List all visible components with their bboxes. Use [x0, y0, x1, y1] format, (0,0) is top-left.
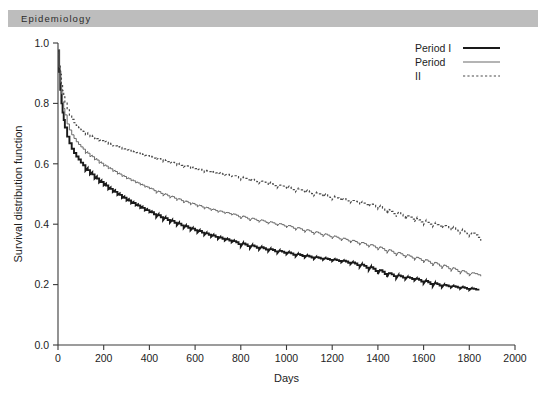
- survival-curve-2: [58, 50, 481, 277]
- x-axis-title: Days: [274, 372, 300, 384]
- survival-curve-1: [58, 51, 478, 291]
- legend-label-3: II: [415, 70, 421, 82]
- legend-label-2: Period: [415, 56, 446, 68]
- chart-legend: Period IPeriodII: [415, 42, 500, 82]
- legend-label-1: Period I: [415, 42, 451, 54]
- y-tick-label: 0.4: [34, 218, 49, 230]
- x-tick-label: 600: [186, 352, 204, 364]
- x-tick-label: 1800: [458, 352, 482, 364]
- y-tick-label: 0.8: [34, 97, 49, 109]
- y-axis-title: Survival distribution function: [12, 126, 24, 263]
- x-tick-label: 1000: [275, 352, 299, 364]
- x-axis-ticks: 0200400600800100012001400160018002000: [55, 345, 527, 364]
- y-axis-ticks: 0.00.20.40.60.81.0: [34, 37, 58, 351]
- survival-chart-svg: 0.00.20.40.60.81.0 020040060080010001200…: [0, 0, 551, 394]
- x-tick-label: 400: [141, 352, 159, 364]
- y-tick-label: 1.0: [34, 37, 49, 49]
- x-tick-label: 1200: [321, 352, 345, 364]
- x-tick-label: 0: [55, 352, 61, 364]
- survival-curves: [58, 50, 481, 291]
- y-tick-label: 0.2: [34, 278, 49, 290]
- x-tick-label: 1600: [412, 352, 436, 364]
- x-tick-label: 1400: [366, 352, 390, 364]
- x-tick-label: 200: [95, 352, 113, 364]
- survival-chart-figure: 0.00.20.40.60.81.0 020040060080010001200…: [0, 0, 551, 394]
- x-tick-label: 800: [232, 352, 250, 364]
- y-tick-label: 0.0: [34, 339, 49, 351]
- survival-curve-3: [58, 54, 481, 240]
- y-tick-label: 0.6: [34, 158, 49, 170]
- x-tick-label: 2000: [503, 352, 527, 364]
